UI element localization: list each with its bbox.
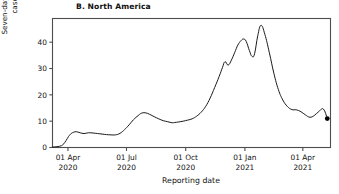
- line-chart-plot: 01020304001 Apr202001 Jul202001 Oct20200…: [0, 0, 339, 194]
- y-axis-tick-label: 0: [42, 143, 47, 152]
- data-series-line: [53, 25, 328, 147]
- x-axis-tick-label: 01 Jan: [233, 153, 256, 162]
- chart-figure: B. North America Seven-day rolling avera…: [0, 0, 339, 194]
- y-axis-tick-label: 30: [38, 64, 48, 73]
- x-axis-tick-label: 01 Apr: [291, 153, 317, 162]
- y-axis-tick-label: 40: [38, 38, 48, 47]
- plot-frame: [53, 19, 331, 148]
- x-axis-tick-label: 01 Oct: [173, 153, 198, 162]
- x-axis-tick-label-year: 2020: [176, 163, 195, 172]
- x-axis-tick-label-year: 2021: [293, 163, 312, 172]
- x-axis-tick-label: 01 Apr: [56, 153, 82, 162]
- x-axis-tick-label-year: 2020: [59, 163, 78, 172]
- x-axis-tick-label-year: 2020: [117, 163, 136, 172]
- x-axis-tick-label: 01 Jul: [116, 153, 137, 162]
- y-axis-tick-label: 10: [38, 117, 48, 126]
- y-axis-tick-label: 20: [38, 91, 48, 100]
- series-end-marker: [325, 116, 330, 121]
- x-axis-label: Reporting date: [52, 176, 330, 185]
- x-axis-tick-label-year: 2021: [236, 163, 255, 172]
